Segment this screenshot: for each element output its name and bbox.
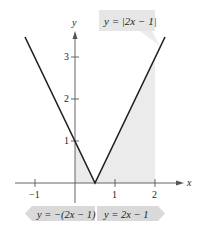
y-tick-label: 2 (64, 93, 69, 104)
x-axis-label: x (186, 177, 192, 188)
x-tick-label: 2 (152, 189, 157, 200)
x-axis-arrow-icon (176, 181, 184, 186)
y-axis-arrow-icon (73, 31, 78, 39)
shaded-area (75, 57, 155, 183)
x-tick-label: 1 (112, 189, 117, 200)
label-pointer (140, 31, 160, 46)
left-piece-label: y = −(2x − 1) (36, 209, 96, 221)
absolute-value-graph: y = |2x − 1| x y −1 1 2 1 2 3 y = −(2x −… (0, 0, 199, 225)
title-label: y = |2x − 1| (103, 15, 157, 27)
y-tick-label: 1 (64, 135, 69, 146)
y-tick-label: 3 (64, 51, 69, 62)
y-axis-label: y (71, 17, 77, 28)
right-piece-label: y = 2x − 1 (103, 209, 149, 220)
x-tick-label: −1 (29, 189, 40, 200)
